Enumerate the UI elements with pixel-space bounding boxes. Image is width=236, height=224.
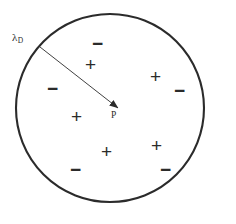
positive-charge: + <box>151 136 162 155</box>
positive-charge: + <box>101 142 112 161</box>
lambda-symbol: λ <box>12 31 17 43</box>
negative-charge: − <box>92 34 103 53</box>
debye-sphere-circle <box>16 14 204 202</box>
negative-charge: − <box>70 160 81 179</box>
debye-length-label: λD <box>12 32 23 43</box>
figure-canvas <box>0 0 236 224</box>
debye-sphere-figure: λD P −++−−+++−− <box>0 0 236 224</box>
positive-charge: + <box>71 107 82 126</box>
negative-charge: − <box>174 81 185 100</box>
point-p-label: P <box>111 111 116 121</box>
positive-charge: + <box>85 55 96 74</box>
positive-charge: + <box>150 67 161 86</box>
lambda-subscript: D <box>18 36 23 45</box>
negative-charge: − <box>160 160 171 179</box>
negative-charge: − <box>47 79 58 98</box>
